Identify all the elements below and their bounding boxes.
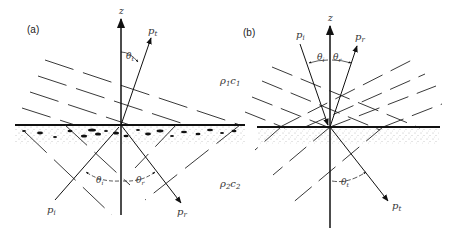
panel-b-wavefronts-reflected bbox=[280, 60, 442, 127]
panel-a-label: (a) bbox=[27, 24, 39, 35]
panel-b-pt-label: pt bbox=[392, 200, 401, 213]
panel-b-theta-t-label: θt bbox=[341, 177, 349, 188]
panel-b: (b) z pi bbox=[243, 13, 442, 228]
medium-1-label: ρ1c1 bbox=[219, 75, 240, 88]
panel-b-z-label: z bbox=[327, 13, 333, 23]
panel-b-theta-r-label: θr bbox=[333, 52, 342, 63]
panel-a-z-label: z bbox=[118, 6, 124, 16]
panel-b-medium-2-texture bbox=[257, 128, 439, 144]
panel-b-label: (b) bbox=[243, 27, 255, 38]
panel-a-theta-t-label: θt bbox=[126, 51, 134, 62]
panel-a: (a) bbox=[15, 6, 245, 219]
panel-a-medium-2-texture bbox=[15, 126, 245, 144]
medium-2-label: ρ2c2 bbox=[219, 178, 241, 191]
panel-a-theta-r-label: θr bbox=[136, 175, 145, 186]
panel-a-pt-label: pt bbox=[148, 25, 157, 38]
panel-a-theta-i-label: θi bbox=[96, 175, 103, 186]
panel-a-pr-label: pr bbox=[177, 206, 187, 219]
panel-b-theta-t-arc bbox=[332, 172, 366, 182]
panel-a-pi-label: pi bbox=[47, 204, 56, 217]
panel-b-pi-label: pi bbox=[296, 29, 305, 42]
panel-b-pr-label: pr bbox=[355, 31, 365, 44]
panel-b-theta-i-label: θi bbox=[317, 52, 324, 63]
reflection-transmission-diagram: (a) bbox=[0, 0, 457, 238]
panel-a-wavefronts-upper bbox=[22, 60, 240, 126]
